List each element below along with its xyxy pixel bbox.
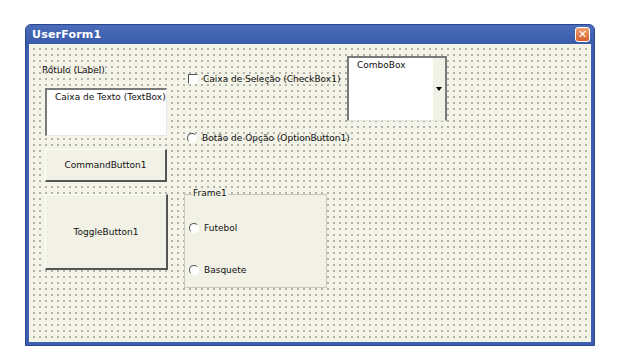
option-button-control[interactable]: Botão de Opção (OptionButton1): [187, 133, 350, 143]
radio-icon[interactable]: [187, 133, 197, 143]
checkbox-control[interactable]: Caixa de Seleção (CheckBox1): [188, 74, 340, 84]
toggle-button[interactable]: ToggleButton1: [45, 194, 168, 270]
option-futebol[interactable]: Futebol: [189, 223, 237, 233]
close-icon: ✕: [578, 28, 587, 41]
option-basquete[interactable]: Basquete: [189, 265, 246, 275]
command-button-label: CommandButton1: [64, 160, 146, 170]
form-design-grid: Rótulo (Label) Caixa de Texto (TextBox) …: [29, 44, 591, 342]
option-button-label: Botão de Opção (OptionButton1): [202, 133, 350, 143]
close-button[interactable]: ✕: [575, 27, 590, 42]
combobox-text: ComboBox: [357, 60, 406, 70]
radio-icon[interactable]: [189, 265, 199, 275]
option-basquete-label: Basquete: [204, 265, 246, 275]
checkbox-label: Caixa de Seleção (CheckBox1): [203, 74, 340, 84]
title-bar[interactable]: UserForm1 ✕: [26, 25, 594, 44]
window-title: UserForm1: [32, 28, 101, 41]
frame-control[interactable]: Frame1 Futebol Basquete: [184, 194, 327, 288]
toggle-button-label: ToggleButton1: [74, 227, 139, 237]
checkbox-icon[interactable]: [188, 74, 198, 84]
combobox-control[interactable]: ComboBox: [347, 56, 447, 121]
textbox-control[interactable]: Caixa de Texto (TextBox): [45, 88, 167, 136]
option-futebol-label: Futebol: [204, 223, 237, 233]
label-control[interactable]: Rótulo (Label): [42, 65, 105, 75]
userform-window: UserForm1 ✕ Rótulo (Label) Caixa de Text…: [25, 24, 595, 346]
combobox-dropdown-button[interactable]: [433, 58, 445, 120]
chevron-down-icon: [436, 87, 442, 91]
textbox-text: Caixa de Texto (TextBox): [55, 92, 166, 102]
radio-icon[interactable]: [189, 223, 199, 233]
frame-caption: Frame1: [192, 188, 228, 198]
command-button[interactable]: CommandButton1: [45, 149, 167, 182]
